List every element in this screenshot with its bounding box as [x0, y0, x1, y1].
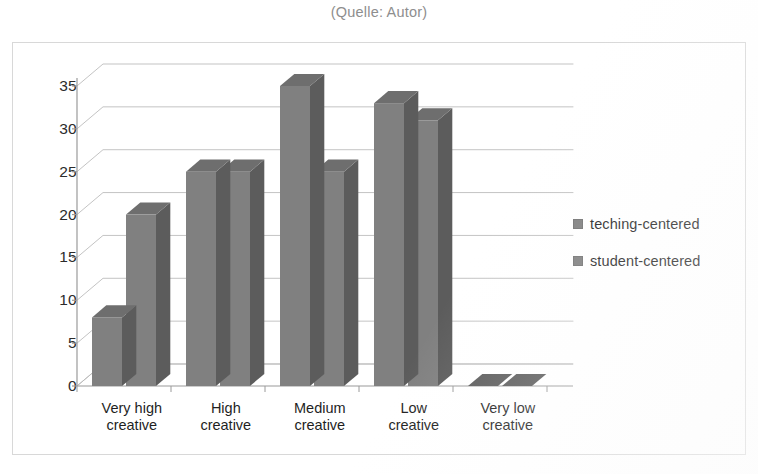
chart-frame: 05101520253035 Very highcreativeHighcrea…	[12, 42, 746, 455]
bar-2-0	[280, 74, 324, 386]
legend-item-0[interactable]: teching-centered	[573, 215, 743, 233]
bar-3-0	[374, 91, 418, 386]
legend-label-0: teching-centered	[590, 216, 700, 232]
figure-source-caption: (Quelle: Autor)	[0, 4, 758, 20]
legend-item-1[interactable]: student-centered	[573, 252, 743, 270]
bar-1-0	[186, 160, 230, 386]
legend-swatch-icon-0	[573, 219, 583, 229]
legend-swatch-icon-1	[573, 256, 583, 266]
legend-label-1: student-centered	[590, 253, 700, 269]
chart-legend: teching-centeredstudent-centered	[573, 215, 743, 289]
plot-area: 05101520253035 Very highcreativeHighcrea…	[13, 43, 747, 456]
bar-0-0	[92, 305, 136, 386]
